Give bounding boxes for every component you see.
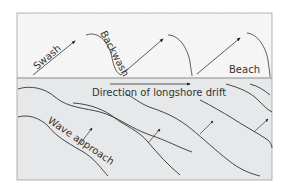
longshore-drift-label: Direction of longshore drift	[92, 87, 226, 98]
beach-label: Beach	[229, 64, 260, 75]
longshore-drift-diagram: Swash Backwash Beach Direction of longsh…	[0, 0, 298, 193]
